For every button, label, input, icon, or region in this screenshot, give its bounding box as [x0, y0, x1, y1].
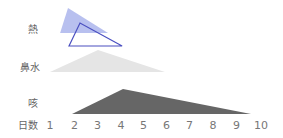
plot-area [0, 0, 283, 138]
x-tick-9: 9 [227, 119, 247, 132]
symptom-duration-chart: 熱 鼻水 咳 日数 1 2 3 4 5 6 7 8 9 10 [0, 0, 283, 138]
x-axis-label: 日数 [15, 119, 41, 132]
x-tick-6: 6 [157, 119, 177, 132]
fever-filled-triangle [60, 8, 108, 33]
cough-triangle [72, 89, 251, 114]
row-label-cough: 咳 [14, 98, 38, 110]
x-tick-2: 2 [65, 119, 85, 132]
x-tick-10: 10 [251, 119, 271, 132]
runny-nose-triangle [50, 50, 165, 72]
x-tick-1: 1 [40, 119, 60, 132]
row-label-fever: 熱 [14, 24, 38, 36]
x-tick-8: 8 [203, 119, 223, 132]
x-tick-7: 7 [180, 119, 200, 132]
x-tick-5: 5 [134, 119, 154, 132]
row-label-runny-nose: 鼻水 [10, 62, 40, 74]
x-tick-4: 4 [111, 119, 131, 132]
x-tick-3: 3 [88, 119, 108, 132]
